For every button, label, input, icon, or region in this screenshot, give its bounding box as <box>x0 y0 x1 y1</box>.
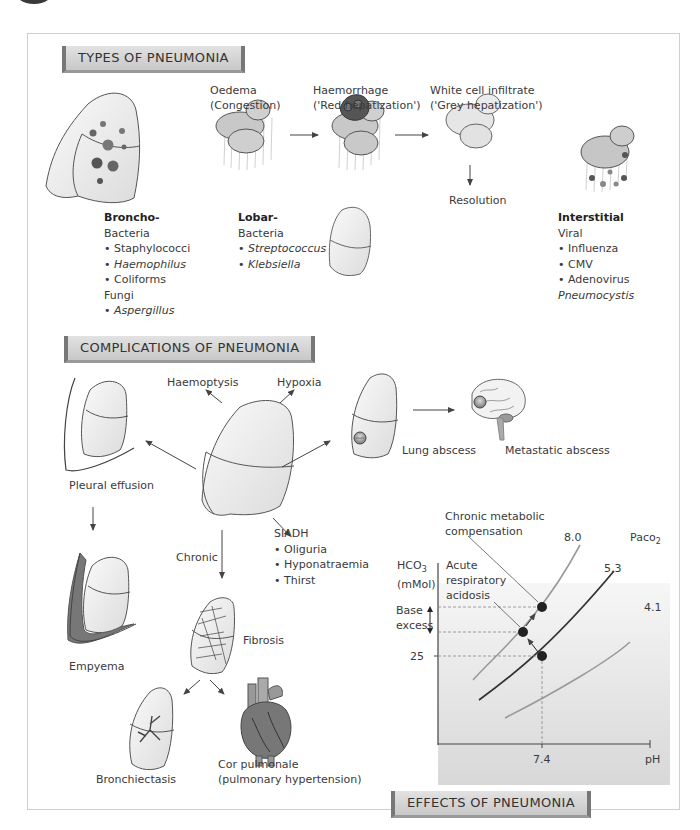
interstitial-item: • Influenza <box>558 241 634 257</box>
section-title-effects: EFFECTS OF PNEUMONIA <box>391 791 591 818</box>
broncho-item: • Haemophilus <box>104 257 190 273</box>
interstitial-heading: Interstitial <box>558 210 634 226</box>
section-title-types: TYPES OF PNEUMONIA <box>62 46 245 73</box>
lobar-item: Bacteria <box>238 226 326 242</box>
bronchopneumonia-lung-icon <box>46 93 140 203</box>
empyema-label: Empyema <box>69 659 124 674</box>
pleural-effusion-label: Pleural effusion <box>69 478 154 493</box>
interstitial-item: • Adenovirus <box>558 272 634 288</box>
interstitial-lung-icon <box>581 126 634 192</box>
broncho-item: Fungi <box>104 288 190 304</box>
interstitial-item: Pneumocystis <box>558 288 634 304</box>
y-axis-label: HCO3(mMol) <box>397 558 436 592</box>
chronic-compensation-label: Chronic metaboliccompensation <box>445 509 545 539</box>
acute-acidosis-label: Acuterespiratoryacidosis <box>446 558 506 603</box>
fibrosis-lung-icon <box>191 598 235 674</box>
siadh-item: • Oliguria <box>274 542 369 558</box>
stage-oedema-label: Oedema(Congestion) <box>210 83 281 113</box>
broncho-item: • Coliforms <box>104 272 190 288</box>
interstitial-item: Viral <box>558 226 634 242</box>
x-tick-7-4: 7.4 <box>533 752 551 767</box>
broncho-item: Bacteria <box>104 226 190 242</box>
stage-red-hepatization-label: Haemorrhage('Red hepatization') <box>313 83 420 113</box>
lobar-heading: Lobar- <box>238 210 326 226</box>
siadh-item: • Hyponatraemia <box>274 557 369 573</box>
base-excess-label: Baseexcess <box>396 603 433 633</box>
legend-title: Paco2 <box>630 530 661 549</box>
pleural-effusion-lung-icon <box>64 378 134 471</box>
section-title-complications: COMPLICATIONS OF PNEUMONIA <box>64 336 315 363</box>
acute-point <box>518 627 528 637</box>
broncho-list: Broncho- Bacteria • Staphylococci • Haem… <box>104 210 190 319</box>
normal-point <box>537 651 547 661</box>
lung-abscess-lung-icon <box>352 374 398 458</box>
haemoptysis-label: Haemoptysis <box>167 375 239 390</box>
isobar-label-4-1: 4.1 <box>644 600 662 615</box>
chronic-label: Chronic <box>176 550 218 565</box>
chronic-point <box>537 602 547 612</box>
broncho-item: • Staphylococci <box>104 241 190 257</box>
siadh-list: SIADH • Oliguria • Hyponatraemia • Thirs… <box>274 526 369 588</box>
resolution-label: Resolution <box>449 193 506 208</box>
interstitial-list: Interstitial Viral • Influenza • CMV • A… <box>558 210 634 303</box>
lobar-list: Lobar- Bacteria • Streptococcus • Klebsi… <box>238 210 326 272</box>
lobar-item: • Klebsiella <box>238 257 326 273</box>
interstitial-item: • CMV <box>558 257 634 273</box>
y-tick-25: 25 <box>410 649 424 664</box>
empyema-lung-icon <box>68 553 136 643</box>
brain-icon <box>472 379 525 440</box>
isobar-label-8-0: 8.0 <box>564 530 582 545</box>
lobar-item: • Streptococcus <box>238 241 326 257</box>
fibrosis-label: Fibrosis <box>243 633 284 648</box>
hypoxia-label: Hypoxia <box>277 375 321 390</box>
siadh-item: • Thirst <box>274 573 369 589</box>
illustration-layer <box>0 0 700 830</box>
broncho-item: • Aspergillus <box>104 303 190 319</box>
bronchiectasis-label: Bronchiectasis <box>96 772 176 787</box>
cor-pulmonale-label: Cor pulmonale(pulmonary hypertension) <box>218 757 362 787</box>
central-lung-icon <box>202 400 294 515</box>
broncho-heading: Broncho- <box>104 210 190 226</box>
metastatic-abscess-label: Metastatic abscess <box>505 443 610 458</box>
x-axis-label: pH <box>645 752 660 767</box>
lung-abscess-label: Lung abscess <box>402 443 476 458</box>
heart-icon <box>241 678 291 766</box>
lobar-lung-icon <box>329 207 371 275</box>
isobar-label-5-3: 5.3 <box>604 561 622 576</box>
bronchiectasis-lung-icon <box>130 688 174 770</box>
stage-grey-hepatization-label: White cell infiltrate('Grey hepatization… <box>430 83 543 113</box>
siadh-heading: SIADH <box>274 526 369 542</box>
